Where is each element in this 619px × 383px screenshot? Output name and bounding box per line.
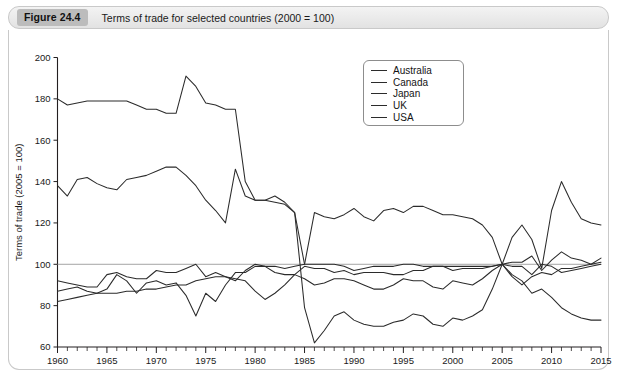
legend-item-uk: UK — [371, 100, 463, 112]
legend-label-usa: USA — [393, 112, 414, 123]
legend-item-usa: USA — [371, 111, 463, 123]
figure-caption: Terms of trade for selected countries (2… — [102, 12, 335, 24]
legend-swatch-canada — [371, 82, 387, 83]
legend-item-australia: Australia — [371, 65, 463, 77]
figure-number-badge: Figure 24.4 — [17, 9, 88, 27]
legend-label-uk: UK — [393, 100, 407, 111]
legend-swatch-usa — [371, 117, 387, 118]
legend-item-japan: Japan — [371, 88, 463, 100]
chart-legend: Australia Canada Japan UK USA — [363, 60, 464, 126]
legend-swatch-uk — [371, 105, 387, 106]
legend-swatch-japan — [371, 93, 387, 94]
figure-header: Figure 24.4 Terms of trade for selected … — [8, 6, 609, 29]
legend-item-canada: Canada — [371, 77, 463, 89]
figure-container: Figure 24.4 Terms of trade for selected … — [0, 0, 619, 383]
legend-label-canada: Canada — [393, 77, 428, 88]
legend-label-australia: Australia — [393, 65, 432, 76]
legend-label-japan: Japan — [393, 88, 420, 99]
legend-swatch-australia — [371, 70, 387, 71]
figure-plate — [8, 30, 609, 370]
